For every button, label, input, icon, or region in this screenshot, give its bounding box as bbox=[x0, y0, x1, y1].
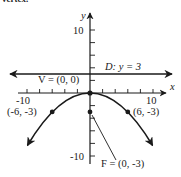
focus-point bbox=[88, 110, 93, 115]
y-tick-bottom-label: -10 bbox=[70, 151, 84, 162]
vertex-label: V = (0, 0) bbox=[38, 74, 80, 86]
directrix-label-text: D: y = 3 bbox=[104, 61, 141, 72]
focus-label: F = (0, -3) bbox=[101, 158, 145, 170]
y-tick-top-label: 10 bbox=[73, 25, 84, 36]
parabola-chart: y x 10 -10 -10 10 D: y = 3 V = (0, 0) (-… bbox=[0, 0, 181, 177]
directrix-label: D: y = 3 bbox=[104, 61, 141, 72]
focus-leader-line bbox=[92, 115, 116, 160]
x-axis-label: x bbox=[169, 81, 175, 92]
point-left-label: (-6, -3) bbox=[7, 106, 37, 118]
y-axis-label: y bbox=[80, 10, 86, 21]
x-tick-left-label: -10 bbox=[16, 95, 30, 106]
vertex-point bbox=[87, 90, 92, 95]
point-left bbox=[50, 110, 55, 115]
point-right-label: (6, -3) bbox=[133, 106, 160, 118]
y-axis bbox=[90, 13, 95, 164]
x-tick-right-label: 10 bbox=[146, 95, 157, 106]
point-right bbox=[125, 110, 130, 115]
